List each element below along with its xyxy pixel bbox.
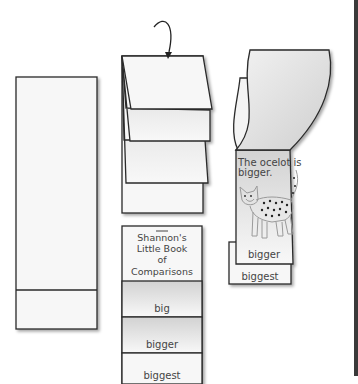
folded-strip bbox=[122, 56, 212, 213]
page-edge-bar bbox=[354, 0, 358, 376]
title-line2: Little Book bbox=[137, 243, 188, 254]
bottom-label-biggest: biggest bbox=[241, 271, 278, 282]
flap-bigger: bigger bbox=[146, 339, 179, 350]
flap-label-bigger: bigger bbox=[248, 249, 281, 260]
flap-biggest: biggest bbox=[143, 370, 180, 381]
fold-down-arrow bbox=[154, 21, 172, 59]
page-text-line2: bigger. bbox=[238, 167, 272, 178]
flap-big: big bbox=[154, 303, 169, 314]
title-line1: Shannon's bbox=[137, 232, 186, 243]
craft-diagram: The ocelot is bigger. bigger biggest bbox=[0, 0, 358, 384]
ocelot-page-text: The ocelot is bigger. bbox=[237, 157, 302, 178]
title-line4: Comparisons bbox=[131, 266, 193, 277]
blank-strip bbox=[16, 77, 97, 329]
title-line3: of bbox=[157, 254, 167, 265]
